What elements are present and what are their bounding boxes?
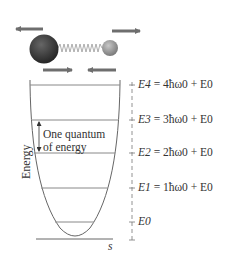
level-label-e0: E0: [138, 216, 151, 228]
y-axis-label: Energy: [19, 145, 34, 179]
energy-diagram: [0, 0, 234, 260]
outward-arrows: [16, 29, 140, 31]
spring-icon: [58, 44, 102, 52]
level-label-e3: E3 = 3ħω0 + E0: [138, 114, 213, 126]
large-atom-icon: [30, 35, 59, 64]
small-atom-icon: [102, 40, 118, 56]
level-label-e1: E1 = 1ħω0 + E0: [138, 182, 213, 194]
level-label-e4: E4 = 4ħω0 + E0: [138, 79, 213, 91]
level-label-e2: E2 = 2ħω0 + E0: [138, 147, 213, 159]
x-axis-label: s: [108, 241, 112, 253]
quantum-annotation: One quantum of energy: [43, 128, 105, 154]
potential-well: [30, 80, 120, 236]
